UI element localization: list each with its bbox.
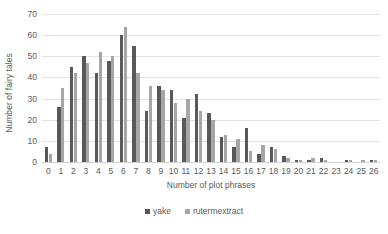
bar-group-6 <box>117 14 130 162</box>
bar-rutermextract-18[interactable] <box>274 149 277 162</box>
bar-yake-5[interactable] <box>107 61 110 162</box>
bar-rutermextract-21[interactable] <box>311 158 314 162</box>
bar-rutermextract-17[interactable] <box>261 145 264 162</box>
x-axis-tick-3: 3 <box>80 164 93 178</box>
bar-rutermextract-5[interactable] <box>111 56 114 162</box>
bar-rutermextract-2[interactable] <box>74 73 77 162</box>
bar-group-14 <box>217 14 230 162</box>
bar-yake-17[interactable] <box>257 154 260 162</box>
bar-rutermextract-1[interactable] <box>61 88 64 162</box>
bar-chart: Number of fairy tales 010203040506070 01… <box>0 0 388 234</box>
bar-yake-2[interactable] <box>70 67 73 162</box>
bar-yake-11[interactable] <box>182 118 185 162</box>
legend-swatch-icon-rutermextract <box>185 209 190 214</box>
bar-group-20 <box>292 14 305 162</box>
bar-rutermextract-22[interactable] <box>324 160 327 162</box>
bar-yake-9[interactable] <box>157 86 160 162</box>
x-axis-tick-16: 16 <box>242 164 255 178</box>
x-axis-tick-6: 6 <box>117 164 130 178</box>
x-axis-tick-14: 14 <box>217 164 230 178</box>
bar-rutermextract-6[interactable] <box>124 27 127 162</box>
bar-group-1 <box>55 14 68 162</box>
x-axis-tick-2: 2 <box>67 164 80 178</box>
bar-rutermextract-3[interactable] <box>86 63 89 162</box>
bar-group-4 <box>92 14 105 162</box>
bar-rutermextract-13[interactable] <box>211 120 214 162</box>
bar-yake-20[interactable] <box>295 160 298 162</box>
x-axis-tick-labels: 0123456789101112131415161718192021222324… <box>42 164 380 178</box>
bar-yake-18[interactable] <box>270 147 273 162</box>
bar-group-26 <box>367 14 380 162</box>
bar-yake-12[interactable] <box>195 94 198 162</box>
bar-rutermextract-26[interactable] <box>374 160 377 162</box>
y-axis-tick-0: 0 <box>32 158 37 167</box>
bar-rutermextract-20[interactable] <box>299 160 302 162</box>
bar-rutermextract-11[interactable] <box>186 99 189 162</box>
bar-rutermextract-25[interactable] <box>361 160 364 162</box>
bar-yake-13[interactable] <box>207 113 210 162</box>
x-axis-tick-13: 13 <box>205 164 218 178</box>
x-axis-tick-17: 17 <box>255 164 268 178</box>
bar-rutermextract-12[interactable] <box>199 111 202 162</box>
y-axis-tick-50: 50 <box>28 52 37 61</box>
bar-rutermextract-14[interactable] <box>224 135 227 162</box>
x-axis-tick-8: 8 <box>142 164 155 178</box>
x-axis-tick-11: 11 <box>180 164 193 178</box>
bar-group-2 <box>67 14 80 162</box>
bar-group-8 <box>142 14 155 162</box>
bar-rutermextract-10[interactable] <box>174 103 177 162</box>
bar-yake-21[interactable] <box>307 160 310 162</box>
x-axis-tick-1: 1 <box>55 164 68 178</box>
x-axis-tick-23: 23 <box>330 164 343 178</box>
x-axis-tick-22: 22 <box>317 164 330 178</box>
bar-yake-3[interactable] <box>82 56 85 162</box>
legend-item-rutermextract[interactable]: rutermextract <box>185 207 243 216</box>
bar-yake-19[interactable] <box>282 156 285 162</box>
y-axis-tick-70: 70 <box>28 10 37 19</box>
x-axis-tick-0: 0 <box>42 164 55 178</box>
chart-legend: yakerutermextract <box>0 207 388 216</box>
bar-yake-26[interactable] <box>370 160 373 162</box>
bar-group-13 <box>205 14 218 162</box>
x-axis-title: Number of plot phrases <box>42 180 380 190</box>
bar-yake-22[interactable] <box>320 158 323 162</box>
bar-group-22 <box>317 14 330 162</box>
bar-rutermextract-4[interactable] <box>99 52 102 162</box>
bar-group-7 <box>130 14 143 162</box>
bar-group-10 <box>167 14 180 162</box>
x-axis-tick-25: 25 <box>355 164 368 178</box>
x-axis-tick-24: 24 <box>342 164 355 178</box>
legend-item-yake[interactable]: yake <box>145 207 171 216</box>
bar-yake-24[interactable] <box>345 160 348 162</box>
bar-yake-8[interactable] <box>145 111 148 162</box>
bar-yake-0[interactable] <box>45 147 48 162</box>
x-axis-tick-4: 4 <box>92 164 105 178</box>
y-axis-title: Number of fairy tales <box>0 0 18 186</box>
bar-rutermextract-9[interactable] <box>161 90 164 162</box>
bar-yake-4[interactable] <box>95 73 98 162</box>
x-axis-tick-19: 19 <box>280 164 293 178</box>
x-axis-tick-15: 15 <box>230 164 243 178</box>
bar-group-23 <box>330 14 343 162</box>
y-axis-tick-10: 10 <box>28 137 37 146</box>
bar-yake-10[interactable] <box>170 90 173 162</box>
bar-rutermextract-8[interactable] <box>149 86 152 162</box>
bar-rutermextract-16[interactable] <box>249 151 252 162</box>
bar-yake-1[interactable] <box>57 107 60 162</box>
bar-yake-14[interactable] <box>220 137 223 162</box>
bar-yake-7[interactable] <box>132 46 135 162</box>
x-axis-tick-12: 12 <box>192 164 205 178</box>
bar-yake-15[interactable] <box>232 147 235 162</box>
bar-yake-16[interactable] <box>245 128 248 162</box>
bar-yake-6[interactable] <box>120 35 123 162</box>
bar-rutermextract-24[interactable] <box>349 160 352 162</box>
bar-rutermextract-15[interactable] <box>236 139 239 162</box>
x-axis-tick-10: 10 <box>167 164 180 178</box>
y-axis-tick-20: 20 <box>28 115 37 124</box>
y-axis-tick-40: 40 <box>28 73 37 82</box>
x-axis-tick-9: 9 <box>155 164 168 178</box>
bar-rutermextract-19[interactable] <box>286 158 289 162</box>
legend-label-rutermextract: rutermextract <box>193 207 243 216</box>
bar-rutermextract-0[interactable] <box>49 154 52 162</box>
bar-rutermextract-7[interactable] <box>136 73 139 162</box>
